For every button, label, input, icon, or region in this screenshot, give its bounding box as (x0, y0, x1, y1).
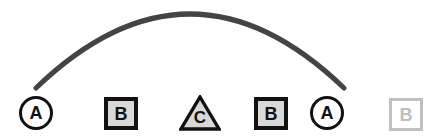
node-c-label: C (194, 109, 206, 126)
node-b-second[interactable]: B (254, 97, 288, 130)
diagram-canvas: A B C B A B (0, 0, 439, 138)
node-a-end[interactable]: A (310, 96, 344, 130)
node-b-second-label: B (265, 105, 278, 123)
node-a-start[interactable]: A (19, 96, 53, 130)
node-b-first-label: B (115, 105, 128, 123)
node-a-end-label: A (321, 104, 334, 122)
node-b-ghost-label: B (400, 106, 413, 124)
node-b-first[interactable]: B (104, 97, 138, 130)
arc-connector (36, 14, 344, 88)
node-c[interactable]: C (179, 95, 221, 131)
node-b-ghost[interactable]: B (389, 98, 423, 131)
node-a-start-label: A (30, 104, 43, 122)
